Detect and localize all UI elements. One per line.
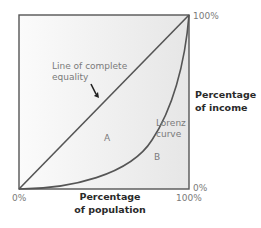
region-a-label: A xyxy=(104,133,110,143)
y-axis-top-tick: 100% xyxy=(193,11,219,21)
y-axis-title-line1: Percentage xyxy=(195,89,256,101)
x-axis-title-line1: Percentage xyxy=(60,191,160,203)
region-b-label: B xyxy=(154,152,160,162)
equality-line-label-line2: equality xyxy=(52,72,88,82)
x-axis-title-line2: of population xyxy=(60,204,160,216)
x-axis-right-tick: 100% xyxy=(176,193,202,203)
y-axis-bottom-tick: 0% xyxy=(193,183,207,193)
x-axis-left-tick: 0% xyxy=(12,193,26,203)
y-axis-title-line2: of income xyxy=(195,102,248,114)
lorenz-curve-label-line1: Lorenz xyxy=(156,118,186,128)
lorenz-curve-diagram: Line of complete equality A B Lorenz cur… xyxy=(0,0,261,228)
lorenz-curve-label-line2: curve xyxy=(156,129,181,139)
equality-line-label-line1: Line of complete xyxy=(52,61,127,71)
